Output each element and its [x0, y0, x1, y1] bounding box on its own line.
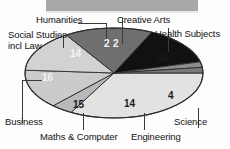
- value-social-studies: 14: [70, 48, 81, 59]
- label-engineering: Engineering: [131, 131, 181, 142]
- label-maths-computer: Maths & Computer: [40, 131, 118, 142]
- chart-canvas: Humanities Creative Arts Health Subjects…: [0, 0, 230, 149]
- value-science: 4: [168, 90, 173, 101]
- label-creative-arts: Creative Arts: [117, 14, 170, 25]
- leader-maths-computer: [83, 113, 84, 130]
- label-health-subjects: Health Subjects: [155, 28, 220, 39]
- value-humanities: 2: [104, 38, 109, 49]
- value-health-subjects: 33: [157, 52, 168, 63]
- value-maths-computer: 15: [73, 99, 84, 110]
- label-social-studies-line2: incl Law: [8, 40, 42, 51]
- label-business: Business: [5, 116, 43, 127]
- label-science: Science: [174, 116, 207, 127]
- value-business: 16: [42, 72, 53, 83]
- value-creative-arts: 2: [113, 38, 118, 49]
- value-engineering: 14: [124, 98, 135, 109]
- label-social-studies-line1: Social Studies: [8, 29, 67, 40]
- label-humanities: Humanities: [36, 14, 83, 25]
- leader-engineering: [144, 113, 145, 130]
- leader-business: [22, 80, 42, 81]
